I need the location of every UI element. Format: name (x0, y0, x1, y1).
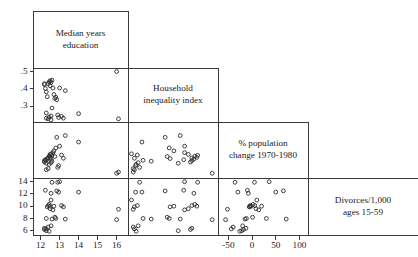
diagonal-label-popchange: % populationchange 1970-1980 (229, 138, 298, 160)
data-point (172, 204, 176, 208)
data-point (130, 152, 134, 156)
diagonal-label-divorces: Divorces/1,000ages 15-59 (335, 195, 392, 217)
y-tick-label: 8 (23, 213, 28, 223)
data-point (281, 189, 285, 193)
data-point (115, 70, 119, 74)
data-point (141, 217, 145, 221)
x-tick-label: 0 (250, 240, 255, 250)
data-point (63, 89, 67, 93)
data-point (186, 153, 190, 157)
points-popchange-vs-inequality (130, 134, 215, 176)
data-point (49, 191, 53, 195)
data-point (117, 207, 121, 211)
diagonal-label-line2: change 1970-1980 (229, 150, 298, 160)
y-tick-label: 6 (23, 225, 28, 235)
data-point (183, 208, 187, 212)
data-point (58, 144, 62, 148)
data-point (233, 180, 237, 184)
data-point (135, 153, 139, 157)
panel-border (129, 179, 219, 236)
data-point (54, 146, 58, 150)
data-point (62, 156, 66, 160)
data-point (196, 180, 200, 184)
data-point (149, 217, 153, 221)
data-point (43, 188, 47, 192)
y-tick-label: .4 (21, 83, 28, 93)
x-tick-label: 16 (112, 240, 122, 250)
data-point (52, 204, 56, 208)
data-point (284, 217, 288, 221)
data-point (224, 218, 228, 222)
y-tick-label: 14 (18, 176, 28, 186)
splom-canvas: .5.4.3141210861213141516-50050100Median … (0, 0, 418, 257)
data-point (192, 191, 196, 195)
data-point (183, 144, 187, 148)
data-point (182, 158, 186, 162)
diagonal-label-line1: Divorces/1,000 (335, 195, 392, 205)
y-tick-label: .5 (21, 66, 28, 76)
x-tick-label: -50 (222, 240, 235, 250)
data-point (140, 190, 144, 194)
data-point (51, 86, 55, 90)
data-point (210, 171, 214, 175)
diagonal-label-line2: inequality index (143, 95, 203, 105)
data-point (210, 218, 214, 222)
data-point (163, 135, 167, 139)
x-tick-label: 12 (36, 240, 46, 250)
data-point (134, 190, 138, 194)
data-point (167, 146, 171, 150)
data-point (178, 134, 182, 138)
scatter-panel-popchange-vs-inequality (129, 123, 219, 179)
x-tick-label: 100 (293, 240, 307, 250)
data-point (77, 190, 81, 194)
data-point (274, 190, 278, 194)
data-point (55, 135, 59, 139)
x-tick-label: 15 (93, 240, 103, 250)
diagonal-label-line2: ages 15-59 (343, 207, 383, 217)
data-point (186, 207, 190, 211)
points-divorces-vs-education (43, 180, 121, 233)
data-point (165, 155, 169, 159)
data-point (50, 180, 54, 184)
data-point (253, 180, 257, 184)
diagonal-label-inequality: Householdinequality index (143, 83, 203, 105)
data-point (44, 217, 48, 221)
y-tick-label: .3 (21, 100, 28, 110)
data-point (168, 205, 172, 209)
data-point (138, 180, 142, 184)
data-point (45, 95, 49, 99)
diagonal-label-education: Median yearseducation (56, 28, 106, 50)
diagonal-label-line1: Median years (56, 28, 106, 38)
data-point (182, 188, 186, 192)
data-point (140, 140, 144, 144)
data-point (149, 159, 153, 163)
data-point (183, 180, 187, 184)
diagonal-label-line2: education (63, 40, 99, 50)
diagonal-label-line1: Household (153, 83, 193, 93)
x-tick-label: 13 (55, 240, 65, 250)
data-point (136, 224, 140, 228)
y-axis-divorces: 14121086 (18, 176, 33, 236)
data-point (176, 161, 180, 165)
x-tick-label: 50 (271, 240, 281, 250)
data-point (172, 149, 176, 153)
data-point (132, 156, 136, 160)
scatterplot-matrix-figure: .5.4.3141210861213141516-50050100Median … (0, 0, 418, 257)
points-popchange-vs-education (43, 134, 121, 176)
data-point (178, 217, 182, 221)
y-tick-label: 12 (18, 188, 28, 198)
data-point (226, 207, 230, 211)
points-divorces-vs-inequality (130, 180, 215, 233)
y-tick-label: 10 (18, 200, 28, 210)
data-point (176, 229, 180, 233)
data-point (251, 215, 255, 219)
panel-border (129, 123, 219, 179)
data-point (77, 112, 81, 116)
data-point (63, 134, 67, 138)
data-point (255, 198, 259, 202)
points-divorces-vs-popchange (224, 180, 288, 233)
scatter-panel-divorces-vs-inequality (129, 179, 219, 236)
data-point (138, 165, 142, 169)
data-point (130, 198, 134, 202)
data-point (50, 106, 54, 110)
